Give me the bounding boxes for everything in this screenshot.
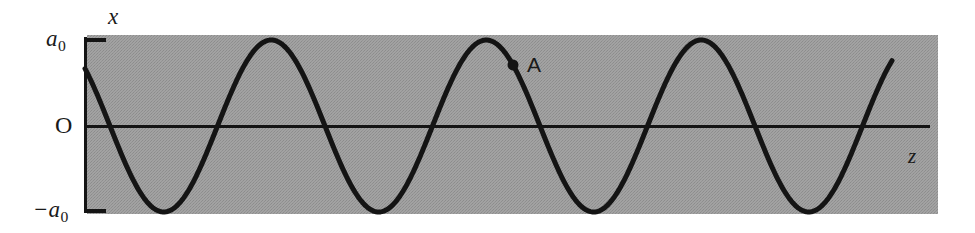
tick-label-a0-base: a — [46, 26, 58, 51]
tick-label-a0-subscript: 0 — [58, 37, 66, 54]
plot-canvas — [0, 0, 975, 233]
point-a-label: A — [527, 54, 541, 75]
x-axis-label: x — [108, 5, 118, 28]
tick-label-negative-a0: −a0 — [33, 198, 68, 225]
origin-label: O — [55, 113, 72, 137]
point-a-marker — [508, 59, 519, 70]
tick-label-a0: a0 — [46, 27, 66, 54]
tick-label-negative-a0-subscript: 0 — [61, 208, 69, 225]
wave-snapshot-figure: x z a0 −a0 O A — [0, 0, 975, 233]
tick-label-negative-a0-base: −a — [33, 197, 60, 222]
z-axis-label: z — [908, 146, 916, 167]
